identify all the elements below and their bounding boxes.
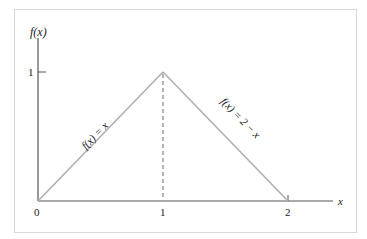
x-tick-label-1: 1 [160, 206, 166, 218]
x-axis-label: x [337, 195, 343, 207]
y-tick-label-1: 1 [28, 66, 34, 78]
line-f-2-minus-x [163, 72, 288, 201]
x-tick-label-2: 2 [285, 206, 291, 218]
y-axis-label: f(x) [30, 25, 47, 39]
right-line-label: f(x) = 2 − x [218, 95, 263, 141]
left-line-label: f(x) = x [79, 119, 111, 152]
chart-canvas: f(x) x 0 1 2 1 f(x) = x f(x) = 2 − x [0, 0, 367, 239]
x-tick-label-0: 0 [34, 206, 40, 218]
